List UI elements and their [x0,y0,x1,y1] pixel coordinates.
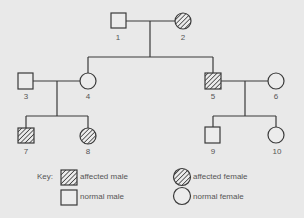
label-6: 6 [274,93,278,101]
individual-1-normal-male [111,13,126,28]
individual-5-affected-male [205,73,221,89]
individual-3-normal-male [18,73,33,89]
key-normal-female-label: normal female [193,193,244,201]
label-3: 3 [24,93,28,101]
label-1: 1 [116,34,120,42]
label-8: 8 [86,148,90,156]
label-5: 5 [211,93,215,101]
individual-6-normal-female [268,73,284,89]
individual-8-affected-female [80,128,96,144]
label-10: 10 [273,148,282,156]
key-normal-male-icon [61,190,77,205]
individual-4-normal-female [80,73,96,89]
individual-9-normal-male [205,127,220,143]
key-normal-female-icon [174,188,191,205]
key-title: Key: [37,173,53,181]
key-affected-female-icon [174,169,191,186]
individual-10-normal-female [268,127,284,143]
key-affected-male-label: affected male [80,173,128,181]
individual-7-affected-male [18,128,34,143]
key-affected-male-icon [61,170,77,185]
label-4: 4 [86,93,90,101]
key-normal-male-label: normal male [80,193,124,201]
label-7: 7 [24,148,28,156]
label-9: 9 [211,148,215,156]
key-affected-female-label: affected female [193,173,248,181]
individual-2-affected-female [175,13,191,29]
pedigree-diagram [0,0,304,218]
label-2: 2 [181,34,185,42]
